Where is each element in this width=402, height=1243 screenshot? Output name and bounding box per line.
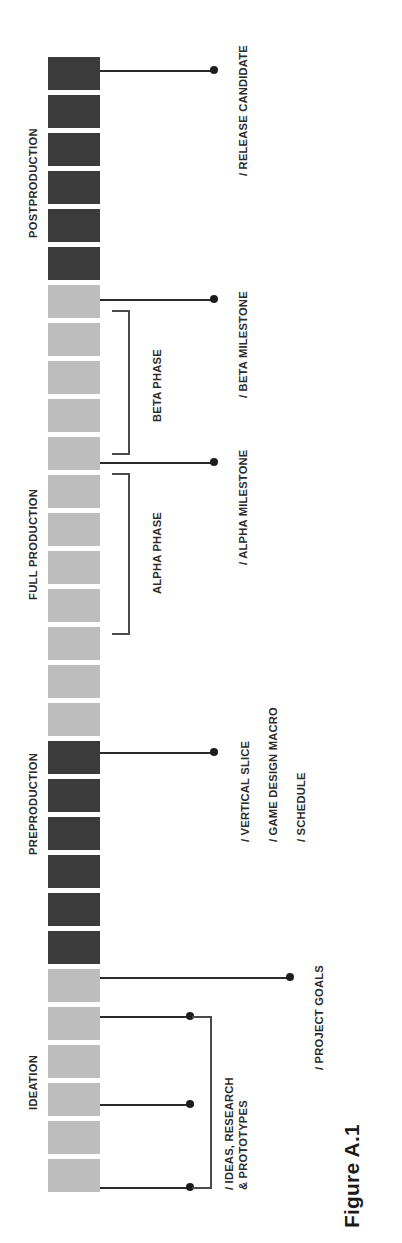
milestone-label-beta-milestone: / BETA MILESTONE [238,291,249,398]
bracket-alpha-phase-spine [128,473,130,635]
timeline-block-10 [48,437,100,470]
timeline-block-0 [48,57,100,90]
milestone-label-vertical-slice: / VERTICAL SLICE [240,741,251,842]
timeline-block-29 [48,1159,100,1192]
leader-line-release-candidate [100,70,212,72]
timeline-block-3 [48,171,100,204]
timeline-block-28 [48,1121,100,1154]
stage-label-full-production: FULL PRODUCTION [28,489,39,600]
timeline-block-2 [48,133,100,166]
timeline-block-16 [48,665,100,698]
milestone-dot-alpha-milestone [210,458,218,466]
milestone-label-release-candidate: / RELEASE CANDIDATE [238,45,249,176]
bracket-alpha-phase-bottom [112,633,130,635]
timeline-block-8 [48,361,100,394]
leader-line-ideas-bottom [100,1187,194,1189]
timeline-block-12 [48,513,100,546]
figure-canvas: POSTPRODUCTION FULL PRODUCTION PREPRODUC… [0,0,402,1243]
stage-label-postproduction: POSTPRODUCTION [28,128,39,238]
milestone-label-schedule: / SCHEDULE [296,772,307,842]
leader-line-beta-milestone [100,299,212,301]
timeline-block-6 [48,285,100,318]
milestone-label-project-goals: / PROJECT GOALS [314,965,325,1070]
timeline-block-4 [48,209,100,242]
timeline-block-5 [48,247,100,280]
stage-label-ideation: IDEATION [28,1055,39,1110]
timeline-block-13 [48,551,100,584]
milestone-dot-release-candidate [210,66,218,74]
timeline-block-17 [48,703,100,736]
bracket-ideas-top [192,1016,212,1018]
timeline-block-18 [48,741,100,774]
timeline-block-7 [48,323,100,356]
milestone-label-ideas-research-prototypes: / IDEAS, RESEARCH & PROTOTYPES [222,1077,250,1190]
milestone-label-game-design-macro: / GAME DESIGN MACRO [268,707,279,842]
timeline-block-15 [48,627,100,660]
timeline-block-14 [48,589,100,622]
timeline-block-11 [48,475,100,508]
bracket-ideas-bottom [192,1187,212,1189]
timeline-block-23 [48,931,100,964]
timeline-block-9 [48,399,100,432]
milestone-dot-ideas-middle [186,1100,194,1108]
timeline-block-22 [48,893,100,926]
bracket-ideas-spine [210,1016,212,1189]
phase-label-beta-phase: BETA PHASE [152,349,163,422]
leader-line-vertical-slice [100,752,212,754]
leader-line-project-goals [100,977,288,979]
milestone-dot-vertical-slice [210,748,218,756]
stage-label-preproduction: PREPRODUCTION [28,753,39,855]
timeline-block-26 [48,1045,100,1078]
leader-line-alpha-milestone [100,462,212,464]
leader-line-ideas-middle [100,1104,194,1106]
timeline-block-24 [48,969,100,1002]
timeline-block-19 [48,779,100,812]
timeline-block-21 [48,855,100,888]
timeline-block-1 [48,95,100,128]
bracket-beta-phase-spine [128,310,130,455]
milestone-label-alpha-milestone: / ALPHA MILESTONE [238,450,249,566]
milestone-dot-project-goals [286,973,294,981]
bracket-beta-phase-bottom [112,453,130,455]
timeline-block-25 [48,1007,100,1040]
milestone-dot-beta-milestone [210,295,218,303]
phase-label-alpha-phase: ALPHA PHASE [152,512,163,594]
leader-line-ideas-top [100,1016,194,1018]
figure-caption: Figure A.1 [340,1124,364,1228]
timeline-block-27 [48,1083,100,1116]
timeline-block-20 [48,817,100,850]
